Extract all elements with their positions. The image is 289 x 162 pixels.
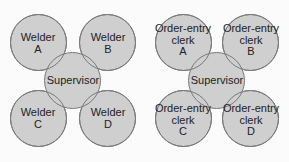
supervisor-label: Supervisor <box>38 75 108 87</box>
supervisor-label: Supervisor <box>182 75 252 87</box>
welder-a-label: WelderA <box>3 32 73 55</box>
clerk-c-label: Order-entryclerkC <box>148 103 218 138</box>
welder-diagram: WelderA WelderB WelderC WelderD Supervis… <box>0 0 145 162</box>
welder-d-label: WelderD <box>73 107 143 130</box>
clerk-a-label: Order-entryclerkA <box>148 23 218 58</box>
welder-c-label: WelderC <box>3 107 73 130</box>
clerk-d-label: Order-entryclerkD <box>216 103 286 138</box>
clerk-diagram: Order-entryclerkA Order-entryclerkB Orde… <box>144 0 289 162</box>
welder-b-label: WelderB <box>73 32 143 55</box>
clerk-b-label: Order-entryclerkB <box>216 23 286 58</box>
